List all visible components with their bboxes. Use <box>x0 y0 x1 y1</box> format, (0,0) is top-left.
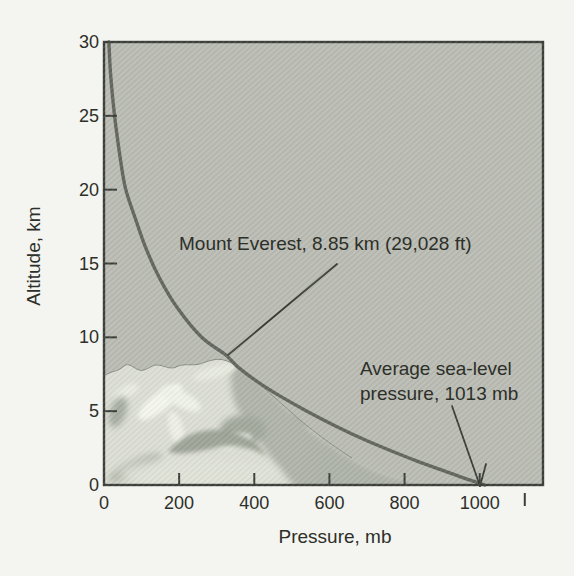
y-axis-title: Altitude, km <box>23 206 45 305</box>
annotation-sea-level: Average sea-level pressure, 1013 mb <box>360 356 518 406</box>
x-tick-label-0: 0 <box>99 492 109 514</box>
y-tick-label-15: 15 <box>79 253 99 275</box>
annotation-sea-level-line1: Average sea-level <box>360 356 518 381</box>
y-tick-label-10: 10 <box>79 326 99 348</box>
x-tick-label-600: 600 <box>314 492 344 514</box>
x-axis-title: Pressure, mb <box>279 526 392 548</box>
annotation-everest: Mount Everest, 8.85 km (29,028 ft) <box>179 233 472 255</box>
chart-canvas <box>0 0 574 576</box>
y-tick-label-0: 0 <box>89 474 99 496</box>
x-tick-label-200: 200 <box>164 492 194 514</box>
x-tick-label-400: 400 <box>239 492 269 514</box>
texture-overlay <box>103 41 544 487</box>
pressure-altitude-figure: 051015202530 02004006008001000 Altitude,… <box>0 0 574 576</box>
y-tick-label-30: 30 <box>79 31 99 53</box>
y-tick-label-20: 20 <box>79 179 99 201</box>
x-tick-label-800: 800 <box>390 492 420 514</box>
y-tick-label-25: 25 <box>79 105 99 127</box>
annotation-sea-level-line2: pressure, 1013 mb <box>360 381 518 406</box>
y-tick-label-5: 5 <box>89 400 99 422</box>
x-tick-label-1000: 1000 <box>460 492 500 514</box>
